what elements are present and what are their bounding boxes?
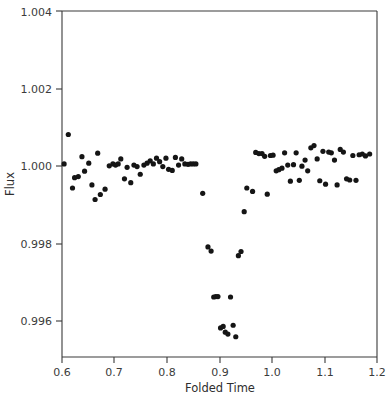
data-point (173, 155, 178, 160)
data-point (288, 179, 293, 184)
y-tick-label-3: 1.002 (21, 83, 53, 96)
x-tick-label-3: 0.9 (211, 366, 229, 379)
data-point (205, 244, 210, 249)
y-tick-label-0: 0.996 (21, 315, 53, 328)
data-point (323, 182, 328, 187)
data-point (125, 165, 130, 170)
data-point (291, 162, 296, 167)
data-point (305, 168, 310, 173)
x-tick-label-4: 1.0 (263, 366, 281, 379)
data-point (350, 153, 355, 158)
data-point (329, 150, 334, 155)
data-point (116, 161, 121, 166)
y-tick-label-1: 0.998 (21, 238, 53, 251)
data-point (176, 162, 181, 167)
data-point (79, 154, 84, 159)
data-point (285, 162, 290, 167)
data-point (238, 249, 243, 254)
data-point (82, 169, 87, 174)
light-curve-figure: 0.996 0.998 1.000 1.002 1.004 0.6 0.7 0.… (0, 0, 392, 402)
data-point (102, 187, 107, 192)
data-point (265, 192, 270, 197)
data-point (200, 191, 205, 196)
data-point (231, 323, 236, 328)
x-axis-ticks: 0.6 0.7 0.8 0.9 1.0 1.1 1.2 (53, 357, 386, 379)
scatter-plot-canvas: 0.996 0.998 1.000 1.002 1.004 0.6 0.7 0.… (0, 0, 392, 402)
data-point (76, 174, 81, 179)
data-point (335, 182, 340, 187)
data-point (225, 331, 230, 336)
data-point (302, 158, 307, 163)
data-point (134, 164, 139, 169)
data-point (367, 151, 372, 156)
data-point (282, 150, 287, 155)
plot-axes-frame (62, 11, 377, 357)
y-axis-ticks: 0.996 0.998 1.000 1.002 1.004 (21, 6, 63, 328)
data-point (86, 161, 91, 166)
x-axis-title: Folded Time (185, 381, 255, 395)
data-point (262, 154, 267, 159)
data-point (242, 209, 247, 214)
data-point (270, 153, 275, 158)
data-point (138, 172, 143, 177)
data-point (163, 156, 168, 161)
data-point (221, 324, 226, 329)
x-tick-label-5: 1.1 (316, 366, 334, 379)
data-point (215, 294, 220, 299)
data-point (279, 166, 284, 171)
y-axis-title: Flux (3, 172, 17, 196)
data-point (95, 151, 100, 156)
data-point (320, 149, 325, 154)
data-point-layer (62, 132, 373, 339)
data-point (62, 161, 67, 166)
data-point (170, 168, 175, 173)
data-point (233, 334, 238, 339)
data-point (250, 189, 255, 194)
data-point (179, 156, 184, 161)
y-tick-label-2: 1.000 (21, 160, 53, 173)
data-point (160, 164, 165, 169)
data-point (151, 161, 156, 166)
data-point (157, 159, 162, 164)
data-point (294, 150, 299, 155)
x-tick-label-1: 0.7 (105, 366, 123, 379)
y-tick-label-4: 1.004 (21, 6, 53, 19)
data-point (193, 161, 198, 166)
data-point (353, 178, 358, 183)
x-tick-label-0: 0.6 (53, 366, 71, 379)
data-point (98, 192, 103, 197)
data-point (244, 185, 249, 190)
data-point (332, 158, 337, 163)
data-point (299, 164, 304, 169)
data-point (70, 185, 75, 190)
data-point (297, 178, 302, 183)
data-point (341, 149, 346, 154)
data-point (118, 156, 123, 161)
x-tick-label-6: 1.2 (368, 366, 386, 379)
data-point (89, 182, 94, 187)
data-point (228, 294, 233, 299)
data-point (66, 132, 71, 137)
data-point (317, 178, 322, 183)
data-point (311, 143, 316, 148)
x-tick-label-2: 0.8 (158, 366, 176, 379)
data-point (122, 176, 127, 181)
data-point (92, 197, 97, 202)
data-point (209, 249, 214, 254)
data-point (128, 180, 133, 185)
data-point (347, 177, 352, 182)
data-point (315, 156, 320, 161)
